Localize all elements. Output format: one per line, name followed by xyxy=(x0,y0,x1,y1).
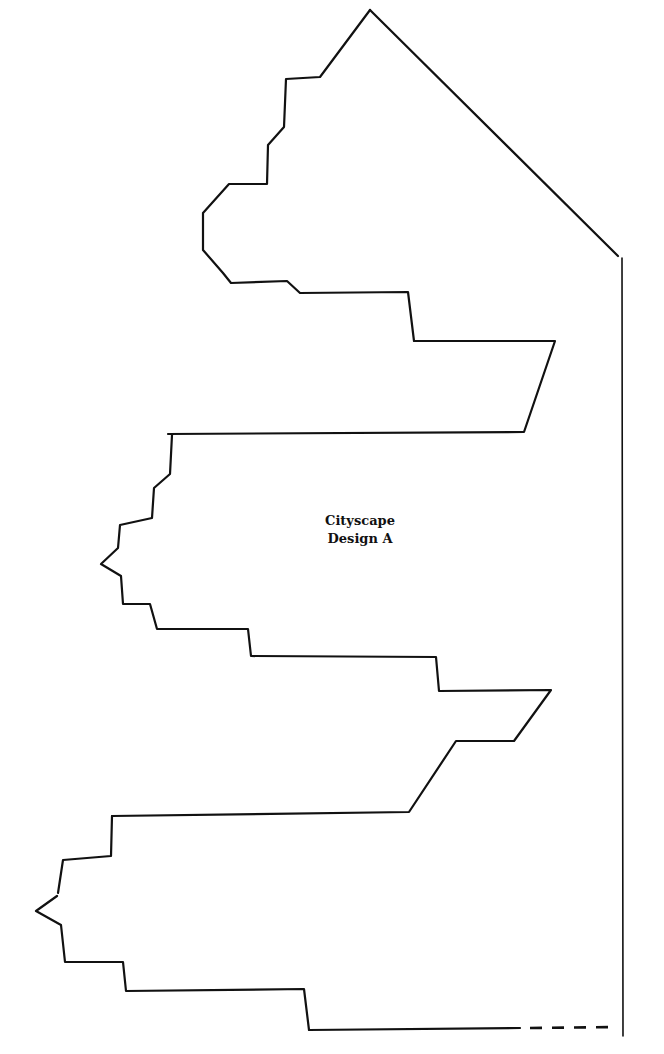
lower-building-outline-bottom xyxy=(36,896,520,1030)
design-title-line-2: Design A xyxy=(290,530,430,548)
design-title: Cityscape Design A xyxy=(290,512,430,548)
right-edge-line xyxy=(622,258,623,1036)
roof-diagonal-line xyxy=(370,10,618,256)
upper-building-outline xyxy=(168,10,555,434)
lower-building-outline-top xyxy=(58,816,112,893)
middle-building-outline xyxy=(101,435,551,816)
fold-line-dashed xyxy=(530,1027,616,1028)
design-title-line-1: Cityscape xyxy=(290,512,430,530)
